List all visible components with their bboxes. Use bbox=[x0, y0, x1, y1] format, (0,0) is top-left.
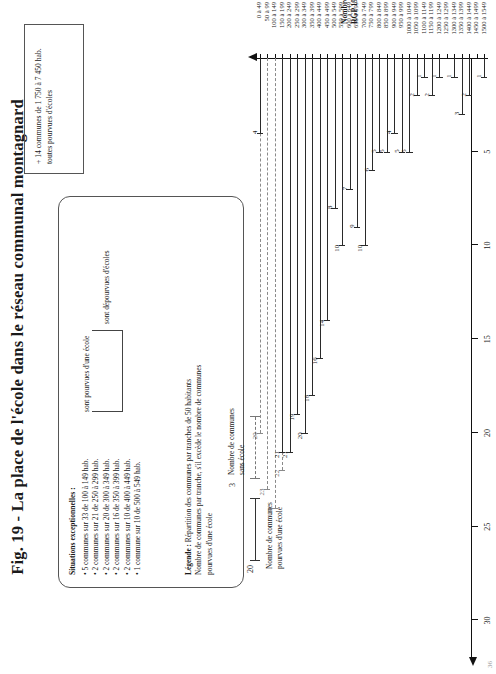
legend-section: Légende : Répartition des communes par t… bbox=[184, 209, 216, 575]
value-tick bbox=[472, 245, 478, 246]
bar-value-label-dashed: 24 bbox=[266, 507, 273, 514]
category-label: 250 à 299 bbox=[293, 2, 300, 28]
legend-description-1: Répartition des communes par tranches de… bbox=[184, 379, 193, 542]
figure-frame: Fig. 19 - La place de l'école dans le ré… bbox=[0, 0, 496, 674]
bar-solid bbox=[484, 58, 485, 77]
legend-symbol-label-right-line1: Nombre de communes bbox=[227, 408, 236, 475]
value-tick-label: 15 bbox=[483, 335, 492, 343]
category-label: 700 à 749 bbox=[360, 2, 367, 28]
category-label: 1000 à 1049 bbox=[405, 2, 412, 35]
bar-solid bbox=[424, 58, 425, 77]
bar-solid bbox=[372, 58, 373, 171]
bar-value-label: 10 bbox=[356, 245, 363, 252]
bar-solid bbox=[402, 58, 403, 152]
bar-value-label: 21 bbox=[281, 451, 288, 458]
category-label: 1350 à 1399 bbox=[457, 2, 464, 35]
bar-value-label: 5 bbox=[393, 149, 400, 152]
category-label: 200 à 249 bbox=[285, 2, 292, 28]
bar-solid bbox=[335, 58, 336, 208]
legend-line-3: pourvues d'une école bbox=[205, 209, 216, 575]
page-marker: 36 bbox=[486, 661, 494, 668]
category-label: 500 à 549 bbox=[330, 2, 337, 28]
bar-solid bbox=[409, 58, 410, 152]
exceptions-list: • 5 communes sur 33 de 100 à 149 hab. • … bbox=[81, 209, 144, 575]
category-label: 150 à 199 bbox=[278, 2, 285, 28]
bar-value-label: 14 bbox=[318, 320, 325, 327]
bar-value-label: 3 bbox=[453, 112, 460, 115]
legend-box: Situations exceptionnelles : • 5 commune… bbox=[58, 196, 244, 588]
bar-value-label: 19 bbox=[288, 414, 295, 421]
category-label: 1200 à 1249 bbox=[435, 2, 442, 35]
value-tick bbox=[472, 338, 478, 339]
legend-symbol-label-right-line2: sans école bbox=[237, 445, 246, 475]
category-label: 1100 à 1149 bbox=[420, 2, 427, 34]
legend-symbol-label-right: Nombre de communes sans école bbox=[227, 408, 246, 475]
bar-solid bbox=[327, 58, 328, 321]
category-label: 550 à 599 bbox=[337, 2, 344, 28]
brace-icon bbox=[92, 330, 123, 412]
bar-solid bbox=[469, 58, 470, 96]
category-label: 50 à 99 bbox=[263, 2, 270, 21]
bar-solid bbox=[439, 58, 440, 77]
legend-symbol-value-right: 3 bbox=[227, 483, 238, 487]
category-label: 1500 à 1549 bbox=[480, 2, 487, 35]
bar-dashed bbox=[275, 58, 276, 508]
category-label: 950 à 999 bbox=[397, 2, 404, 28]
bar-solid bbox=[357, 58, 358, 227]
bar-value-label: 4 bbox=[385, 131, 392, 134]
bar-value-label: 5 bbox=[370, 149, 377, 152]
bar-solid bbox=[260, 58, 261, 133]
category-label: 100 à 149 bbox=[270, 2, 277, 28]
rotated-canvas: Fig. 19 - La place de l'école dans le ré… bbox=[0, 0, 496, 674]
category-label: 1400 à 1449 bbox=[465, 2, 472, 35]
bar-value-label-dashed: 22 bbox=[273, 470, 280, 477]
bar-solid bbox=[350, 58, 351, 189]
category-tick bbox=[477, 54, 478, 58]
category-label: 600 à 649 bbox=[345, 2, 352, 28]
bar-value-label: 2 bbox=[408, 93, 415, 96]
bar-series-container: 0 à 4920450 à 9923100 à 14924150 à 19922… bbox=[256, 58, 488, 674]
bar-dashed bbox=[267, 58, 268, 489]
category-label: 650 à 699 bbox=[352, 2, 359, 28]
category-label: 1250 à 1299 bbox=[442, 2, 449, 35]
bar-solid bbox=[462, 58, 463, 114]
bar-solid bbox=[342, 58, 343, 246]
bar-solid bbox=[394, 58, 395, 133]
category-label: 0 à 49 bbox=[255, 2, 262, 18]
note-box-line-2: toutes pourvues d'écoles bbox=[44, 34, 55, 164]
note-box-line-1: + 14 communes de 1 750 à 7 450 hab. bbox=[33, 34, 44, 164]
bar-value-label: 6 bbox=[363, 168, 370, 171]
bar-solid bbox=[297, 58, 298, 414]
category-label: 800 à 849 bbox=[375, 2, 382, 28]
value-tick bbox=[472, 151, 478, 152]
bar-value-label: 16 bbox=[311, 357, 318, 364]
category-label: 1300 à 1349 bbox=[450, 2, 457, 35]
bar-value-label: 10 bbox=[333, 245, 340, 252]
bar-value-label: 1 bbox=[415, 74, 422, 77]
category-label: 1050 à 1099 bbox=[412, 2, 419, 35]
bar-value-label: 21 bbox=[273, 451, 280, 458]
bar-value-label: 2 bbox=[423, 93, 430, 96]
bar-value-label: 5 bbox=[378, 149, 385, 152]
bar-value-label: 5 bbox=[400, 149, 407, 152]
exceptions-brace-group: sont dépourvues d'écoles bbox=[82, 198, 140, 412]
value-tick-label: 30 bbox=[483, 617, 492, 625]
bar-solid bbox=[305, 58, 306, 433]
value-tick bbox=[472, 526, 478, 527]
bar-value-label: 4 bbox=[251, 131, 258, 134]
bar-solid bbox=[379, 58, 380, 152]
bar-solid bbox=[365, 58, 366, 246]
legend-label: Légende : bbox=[184, 544, 193, 575]
bar-solid bbox=[290, 58, 291, 452]
note-box: + 14 communes de 1 750 à 7 450 hab. tout… bbox=[24, 24, 84, 174]
value-tick-label: 5 bbox=[483, 150, 492, 154]
category-label: 750 à 799 bbox=[367, 2, 374, 28]
bar-value-label: 8 bbox=[326, 206, 333, 209]
category-tick bbox=[447, 54, 448, 58]
bar-solid bbox=[320, 58, 321, 358]
bar-value-label-dashed: 23 bbox=[258, 489, 265, 496]
bar-value-label: 20 bbox=[296, 432, 303, 439]
category-label: 450 à 499 bbox=[323, 2, 330, 28]
value-tick bbox=[472, 432, 478, 433]
bar-solid bbox=[282, 58, 283, 452]
